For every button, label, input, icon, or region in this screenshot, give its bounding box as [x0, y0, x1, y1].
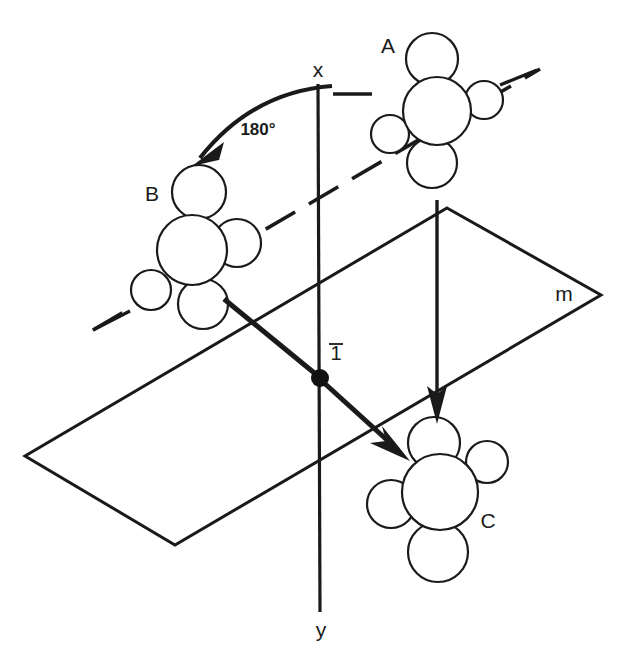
diagram-canvas: A B C: [0, 0, 619, 666]
mirror-plane-label: m: [555, 282, 573, 305]
y-axis-label: y: [316, 618, 327, 641]
inversion-centre-label: 1: [330, 342, 341, 364]
molecule-c-label: C: [480, 509, 495, 532]
molecule-a-label: A: [381, 34, 395, 57]
molecule-c-atom-central: [402, 454, 478, 530]
molecule-b: B: [93, 165, 261, 330]
molecule-b-atom-top: [172, 165, 226, 219]
x-axis-label: x: [313, 58, 324, 81]
molecule-b-label: B: [145, 182, 159, 205]
vertical-axis-line: [318, 84, 320, 612]
rotation-axis: [318, 84, 320, 612]
rotation-angle-label: 180°: [240, 120, 275, 139]
symmetry-diagram-figure: A B C: [0, 0, 619, 666]
inversion-centre: 1: [311, 342, 343, 387]
molecule-a: A: [333, 33, 537, 188]
molecule-b-bond-left: [93, 311, 130, 330]
molecule-a-atom-central: [403, 77, 471, 145]
mirror-mapping-arrow: [427, 200, 447, 424]
inversion-centre-dot: [311, 369, 329, 387]
molecule-a-bond-right: [500, 70, 537, 85]
molecule-b-atom-central: [157, 215, 227, 285]
molecule-b-atom-left-small: [131, 270, 171, 310]
molecule-b-atom-bottom: [178, 279, 228, 329]
